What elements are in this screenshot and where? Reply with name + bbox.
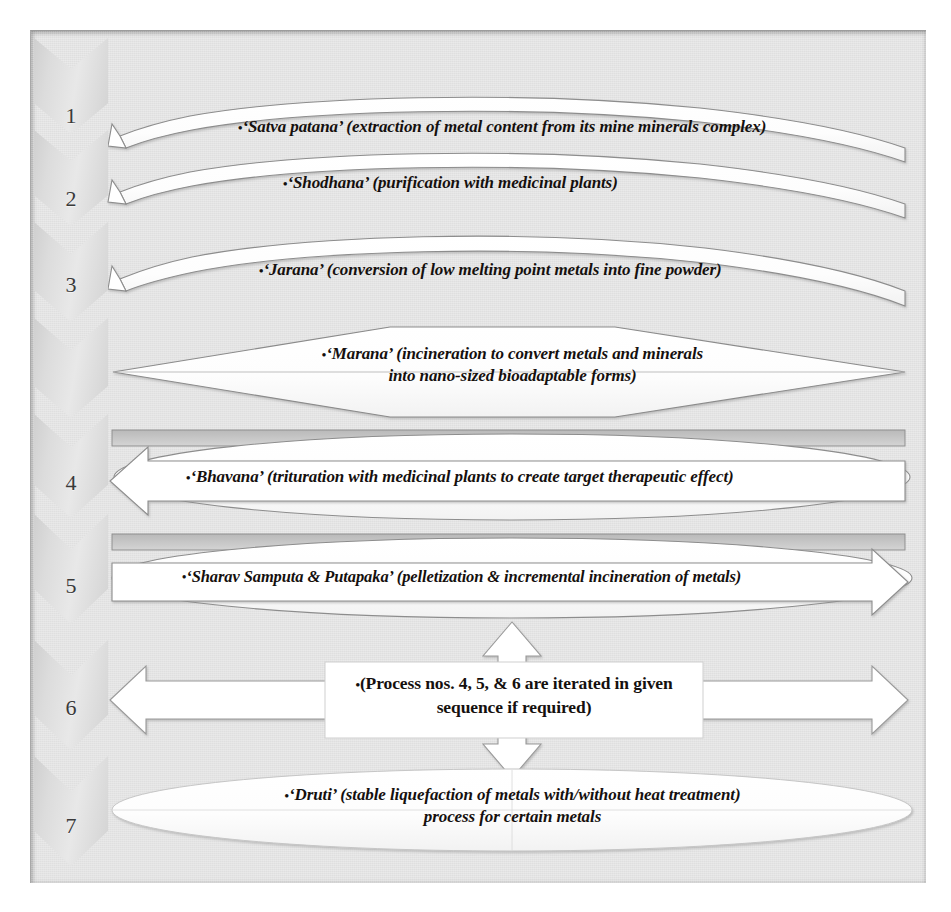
chevron-number-4: 4 (34, 470, 108, 496)
label-text-step-6-line1: (Process nos. 4, 5, & 6 are iterated in … (360, 673, 673, 693)
label-text-step-4: ‘Bhavana’ (trituration with medicinal pl… (190, 467, 733, 486)
label-step-5: •‘Sharav Samputa & Putapaka’ (pelletizat… (182, 568, 741, 586)
chevron-number-3: 3 (34, 272, 108, 298)
chevron-number-7: 7 (34, 813, 108, 839)
paper-grain-texture (31, 31, 926, 883)
chevron-number-5: 5 (34, 573, 108, 599)
label-step-marana: •‘Marana’ (incineration to convert metal… (230, 343, 795, 387)
chevron-number-1: 1 (34, 103, 108, 129)
label-step-2: •‘Shodhana’ (purification with medicinal… (283, 173, 618, 192)
label-text-marana-line1: ‘Marana’ (incineration to convert metals… (326, 344, 703, 363)
label-text-step-3: ‘Jarana’ (conversion of low melting poin… (263, 260, 721, 279)
chevron-number-6: 6 (34, 695, 108, 721)
label-step-1: •‘Satva patana’ (extraction of metal con… (238, 117, 766, 136)
label-text-step-2: ‘Shodhana’ (purification with medicinal … (287, 173, 617, 192)
label-step-3: •‘Jarana’ (conversion of low melting poi… (259, 260, 722, 279)
label-text-step-5: ‘Sharav Samputa & Putapaka’ (pelletizati… (186, 567, 741, 586)
label-step-7: •‘Druti’ (stable liquefaction of metals … (190, 784, 835, 828)
diagram-panel (30, 30, 926, 883)
diagram-canvas: 1 2 3 4 5 6 7 •‘Satva patana’ (extractio… (0, 0, 951, 912)
label-text-step-7-line1: ‘Druti’ (stable liquefaction of metals w… (289, 785, 741, 804)
label-step-6: •(Process nos. 4, 5, & 6 are iterated in… (330, 671, 698, 719)
label-text-marana-line2: into nano-sized bioadaptable forms) (388, 366, 636, 385)
label-step-4: •‘Bhavana’ (trituration with medicinal p… (186, 467, 734, 486)
label-text-step-6-line2: sequence if required) (437, 697, 592, 717)
chevron-number-2: 2 (34, 186, 108, 212)
label-text-step-1: ‘Satva patana’ (extraction of metal cont… (242, 117, 766, 136)
label-text-step-7-line2: process for certain metals (424, 807, 601, 826)
